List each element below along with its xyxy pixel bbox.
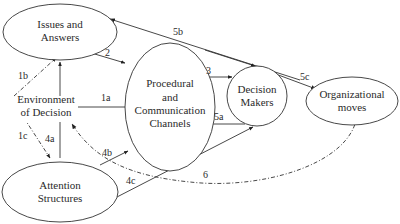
edge-label-2: 2 <box>105 47 110 58</box>
node-channels-line2: and <box>162 91 178 103</box>
node-issues-line1: Issues and <box>37 18 83 30</box>
node-environment-of-decision: Environment of Decision <box>16 93 76 122</box>
edge-label-4b: 4b <box>102 147 112 158</box>
edge-label-1b: 1b <box>18 70 28 81</box>
node-dm-line1: Decision <box>237 83 277 95</box>
node-channels-line3: Communication <box>135 104 206 116</box>
edge-label-1a: 1a <box>101 92 111 103</box>
node-dm-line2: Makers <box>241 96 274 108</box>
edge-5b-tip-dm <box>205 50 255 66</box>
node-channels-line1: Procedural <box>146 77 194 89</box>
node-decision-makers: Decision Makers <box>227 66 287 126</box>
node-org-line2: moves <box>338 101 367 113</box>
edge-label-5c: 5c <box>300 71 310 82</box>
node-attention-line1: Attention <box>39 179 81 191</box>
node-issues-line2: Answers <box>41 31 80 43</box>
node-issues-and-answers: Issues and Answers <box>3 4 117 60</box>
node-env-line1: Environment <box>17 93 74 105</box>
edge-label-6: 6 <box>203 169 208 180</box>
edge-6 <box>72 116 357 183</box>
edge-label-4a: 4a <box>45 133 55 144</box>
edge-label-1c: 1c <box>18 130 28 141</box>
node-org-line1: Organizational <box>319 88 384 100</box>
node-channels-line4: Channels <box>150 117 191 129</box>
edge-label-5b: 5b <box>173 26 183 37</box>
edge-label-3: 3 <box>206 65 211 76</box>
node-procedural-channels: Procedural and Communication Channels <box>125 43 215 171</box>
node-organizational-moves: Organizational moves <box>306 77 398 125</box>
node-attention-line2: Structures <box>38 192 83 204</box>
attention-based-view-diagram: Issues and Answers Procedural and Commun… <box>0 0 400 224</box>
node-env-line2: of Decision <box>20 106 72 118</box>
edge-label-5a: 5a <box>214 111 224 122</box>
node-attention-structures: Attention Structures <box>2 162 118 222</box>
edge-label-4c: 4c <box>126 175 136 186</box>
